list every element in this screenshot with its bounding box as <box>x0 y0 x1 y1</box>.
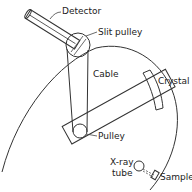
crystal-label: Crystal <box>158 76 190 86</box>
detector-label: Detector <box>62 6 102 16</box>
slit-pulley-leader <box>86 32 97 36</box>
xray-tube-label-line2: tube <box>112 168 133 178</box>
xray-tube-label-line1: X-ray <box>110 157 134 167</box>
pulley <box>73 124 87 138</box>
detector-leader <box>50 12 61 19</box>
cable-right <box>87 50 88 132</box>
focusing-circle-arc <box>2 46 177 190</box>
slit-pulley-label: Slit pulley <box>98 27 143 37</box>
pulley-label: Pulley <box>98 131 126 141</box>
slit-pulley <box>66 33 90 57</box>
cable-label: Cable <box>93 69 119 79</box>
sample <box>151 170 159 179</box>
xray-tube <box>134 161 144 171</box>
sample-label: Sample <box>160 172 192 182</box>
spectrometer-diagram: Detector Slit pulley Cable Crystal Pulle… <box>0 0 192 192</box>
